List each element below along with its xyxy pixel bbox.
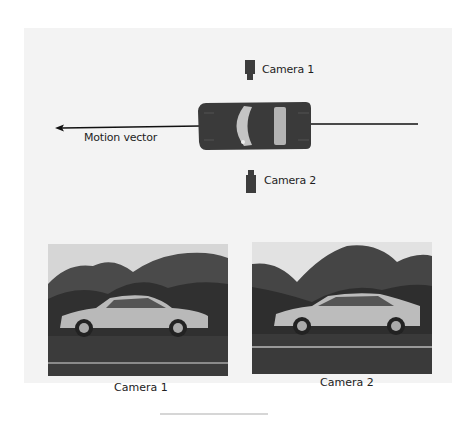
camera-2-label: Camera 2 xyxy=(264,174,316,187)
camera-1-photo xyxy=(48,244,228,376)
camera-2-icon xyxy=(246,170,256,193)
camera-1-icon xyxy=(245,60,255,80)
top-view-diagram xyxy=(0,0,474,220)
bottom-divider xyxy=(160,413,268,415)
camera-1-caption: Camera 1 xyxy=(114,381,168,394)
camera-1-label: Camera 1 xyxy=(262,63,314,76)
car-top-view-icon xyxy=(198,102,311,150)
camera-2-caption: Camera 2 xyxy=(320,376,374,389)
camera-2-photo xyxy=(252,242,432,374)
motion-vector-label: Motion vector xyxy=(84,131,157,144)
motion-vector-arrow xyxy=(62,126,200,128)
